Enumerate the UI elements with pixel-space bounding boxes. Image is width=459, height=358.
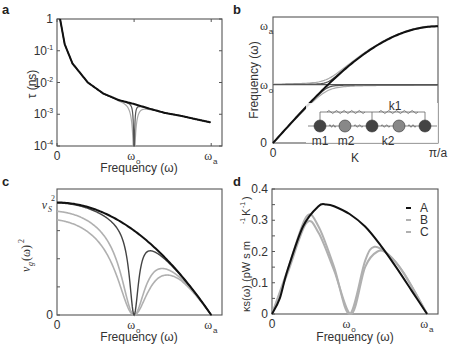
tick-label: ωa bbox=[204, 149, 218, 166]
svg-text:-2: -2 bbox=[47, 76, 53, 83]
svg-text:-1: -1 bbox=[239, 218, 246, 224]
label-m1: m1 bbox=[312, 134, 329, 148]
tick-label: 0 bbox=[54, 318, 61, 332]
mass-m2-icon bbox=[339, 120, 351, 132]
tick-label: 0 bbox=[269, 317, 276, 331]
svg-text:10: 10 bbox=[34, 139, 48, 153]
svg-text:10: 10 bbox=[34, 107, 48, 121]
mass-m1-icon bbox=[314, 120, 326, 132]
panel-a-ylabel: τ (ns) bbox=[25, 70, 39, 99]
svg-text:κs(ω) (pW s m: κs(ω) (pW s m bbox=[240, 241, 252, 312]
tick-label: 0 bbox=[46, 308, 53, 322]
panel-a-curves bbox=[60, 19, 211, 146]
svg-text:): ) bbox=[240, 196, 252, 200]
svg-text:-3: -3 bbox=[47, 107, 53, 114]
svg-text:S: S bbox=[48, 205, 52, 214]
panel-d-xlabel: Frequency (ω) bbox=[316, 330, 393, 344]
panel-d-ticks: 00.10.20.30.40ωoωa bbox=[251, 182, 434, 334]
panel-d-legend: ABC bbox=[406, 201, 429, 239]
panel-label-a: a bbox=[2, 2, 10, 17]
panel-c-xlabel: Frequency (ω) bbox=[100, 330, 177, 344]
svg-text:a: a bbox=[429, 325, 434, 334]
panel-d-frame bbox=[272, 189, 438, 314]
tick-label: ωa bbox=[420, 317, 434, 334]
svg-text:ω: ω bbox=[260, 19, 268, 33]
mass-spring-inset: k1m1m2k2 bbox=[306, 99, 438, 148]
legend-label-C: C bbox=[420, 225, 429, 239]
tick-label: 10-3 bbox=[34, 107, 54, 121]
svg-text:a: a bbox=[213, 326, 218, 335]
tick-label: π/a bbox=[429, 146, 448, 160]
svg-text:g: g bbox=[26, 262, 35, 266]
panel-d: d 00.10.20.30.40ωoωa ABC κs(ω) (pW s m -… bbox=[233, 174, 438, 344]
svg-text:ω: ω bbox=[343, 317, 351, 331]
svg-text:0: 0 bbox=[260, 136, 267, 150]
svg-text:0.3: 0.3 bbox=[251, 213, 268, 227]
mass-m1-icon bbox=[366, 120, 378, 132]
tick-label: ωo bbox=[260, 78, 274, 95]
mass-m1-icon bbox=[419, 120, 431, 132]
tick-label: 0 bbox=[261, 307, 268, 321]
svg-text:0: 0 bbox=[54, 149, 61, 163]
panel-a-frame bbox=[57, 19, 222, 146]
tick-label: ωa bbox=[204, 318, 218, 335]
svg-text:0: 0 bbox=[46, 308, 53, 322]
tick-label: ωa bbox=[260, 19, 274, 36]
mass-m2-icon bbox=[393, 120, 405, 132]
svg-text:-1: -1 bbox=[239, 202, 246, 208]
label-k1: k1 bbox=[389, 99, 402, 113]
svg-text:0: 0 bbox=[54, 318, 61, 332]
panel-b-ylabel: Frequency (ω) bbox=[247, 41, 261, 118]
tick-label: 1 bbox=[46, 12, 53, 26]
svg-text:0.2: 0.2 bbox=[251, 245, 268, 259]
svg-text:2: 2 bbox=[51, 194, 55, 203]
panel-b: b 0ωoωa0π/a k1m1m2k2 Frequency (ω) K bbox=[233, 2, 447, 165]
label-m2: m2 bbox=[338, 134, 355, 148]
svg-text:a: a bbox=[213, 157, 218, 166]
panel-d-ylabel: κs(ω) (pW s m -1 K -1 ) bbox=[239, 196, 252, 312]
svg-text:0.1: 0.1 bbox=[251, 276, 268, 290]
svg-text:2: 2 bbox=[17, 239, 26, 243]
panel-label-b: b bbox=[233, 2, 241, 17]
svg-text:-1: -1 bbox=[47, 44, 53, 51]
svg-text:-4: -4 bbox=[47, 139, 53, 146]
tick-label: 0.1 bbox=[251, 276, 268, 290]
svg-text:(ω): (ω) bbox=[19, 245, 33, 261]
svg-text:ω: ω bbox=[420, 317, 428, 331]
panel-d-curves bbox=[272, 204, 427, 314]
label-k2: k2 bbox=[382, 134, 395, 148]
tick-label: 0.4 bbox=[251, 182, 268, 196]
panel-c: c 0vS20ωoωa v g (ω) 2 Frequency (ω) bbox=[2, 174, 222, 344]
svg-text:ω: ω bbox=[260, 78, 268, 92]
panel-c-ticks: 0vS20ωoωa bbox=[42, 194, 218, 336]
figure: a 110-110-210-310-40ωoωa τ (ns) Frequenc… bbox=[0, 0, 459, 358]
panel-c-ylabel: v g (ω) 2 bbox=[17, 239, 35, 272]
panel-b-xlabel: K bbox=[351, 151, 359, 165]
tick-label: 0.2 bbox=[251, 245, 268, 259]
svg-text:ω: ω bbox=[204, 149, 212, 163]
svg-text:v: v bbox=[42, 198, 48, 212]
panel-label-c: c bbox=[2, 174, 9, 189]
panel-a: a 110-110-210-310-40ωoωa τ (ns) Frequenc… bbox=[2, 2, 222, 175]
svg-text:10: 10 bbox=[34, 44, 48, 58]
panel-a-ticks: 110-110-210-310-40ωoωa bbox=[34, 12, 222, 166]
svg-text:K: K bbox=[240, 208, 252, 216]
tick-label: 10-1 bbox=[34, 44, 54, 58]
tick-label: 0 bbox=[270, 146, 277, 160]
svg-text:0: 0 bbox=[261, 307, 268, 321]
svg-text:0: 0 bbox=[270, 146, 277, 160]
svg-text:ω: ω bbox=[204, 318, 212, 332]
tick-label: 0 bbox=[54, 149, 61, 163]
tick-label: 10-4 bbox=[34, 139, 54, 153]
svg-text:o: o bbox=[269, 86, 274, 95]
tick-label: 0.3 bbox=[251, 213, 268, 227]
panel-a-xlabel: Frequency (ω) bbox=[100, 161, 177, 175]
svg-text:a: a bbox=[269, 27, 274, 36]
panel-label-d: d bbox=[233, 174, 241, 189]
svg-text:0: 0 bbox=[269, 317, 276, 331]
panel-c-curves bbox=[57, 203, 212, 316]
svg-text:1: 1 bbox=[46, 12, 53, 26]
tick-label: 0 bbox=[260, 136, 267, 150]
svg-text:0.4: 0.4 bbox=[251, 182, 268, 196]
svg-text:π/a: π/a bbox=[429, 146, 448, 160]
